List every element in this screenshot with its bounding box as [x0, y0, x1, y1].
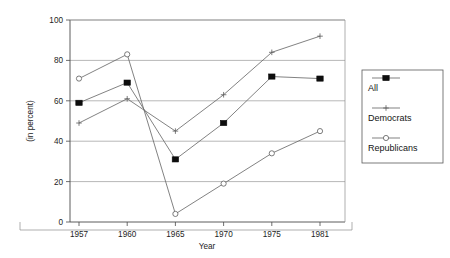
- chart-background: [0, 0, 450, 258]
- line-chart: 020406080100 195719601965197019751981 (i…: [0, 0, 450, 258]
- y-tick-label: 100: [49, 16, 63, 25]
- data-point-marker: [172, 157, 178, 162]
- data-point-marker: [76, 76, 81, 81]
- data-point-marker: [220, 120, 226, 125]
- y-axis-title: (in percent): [26, 100, 35, 142]
- legend-label: Republicans: [368, 143, 418, 153]
- x-tick-label: 1957: [70, 230, 89, 239]
- y-tick-label: 40: [54, 137, 64, 146]
- x-tick-label: 1975: [263, 230, 282, 239]
- data-point-marker: [317, 76, 323, 81]
- x-tick-label: 1960: [118, 230, 137, 239]
- data-point-marker: [221, 181, 226, 186]
- data-point-marker: [317, 129, 322, 134]
- chart-figure: 020406080100 195719601965197019751981 (i…: [0, 0, 450, 258]
- data-point-marker: [269, 74, 275, 79]
- x-tick-label: 1970: [214, 230, 233, 239]
- x-tick-label: 1981: [311, 230, 330, 239]
- x-tick-label: 1965: [166, 230, 185, 239]
- y-tick-label: 20: [54, 178, 64, 187]
- legend-label: Democrats: [368, 113, 412, 123]
- y-tick-label: 0: [58, 218, 63, 227]
- data-point-marker: [173, 211, 178, 216]
- x-axis-title: Year: [199, 242, 216, 251]
- data-point-marker: [76, 100, 82, 105]
- data-point-marker: [269, 151, 274, 156]
- legend-label: All: [368, 83, 378, 93]
- y-tick-label: 60: [54, 97, 64, 106]
- legend-marker-open-circle: [383, 135, 388, 140]
- y-tick-label: 80: [54, 56, 64, 65]
- legend-marker-filled-square: [383, 75, 389, 80]
- data-point-marker: [125, 52, 130, 57]
- data-point-marker: [124, 80, 130, 85]
